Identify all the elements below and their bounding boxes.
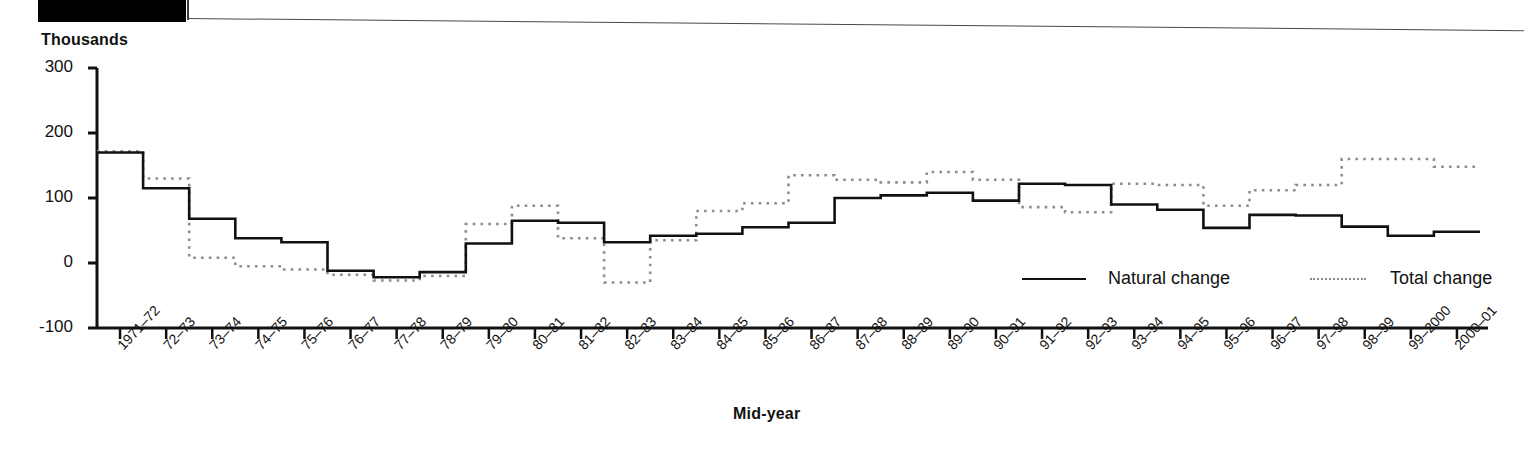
chart-figure: Thousands -1000100200300 1971–7272–7373–… [0,0,1524,466]
series-group [97,151,1480,282]
plot-canvas [0,0,1524,466]
legend-swatch-solid-icon [1022,272,1086,286]
legend-entry-natural-change[interactable]: Natural change [1022,268,1230,289]
x-axis-title: Mid-year [733,405,800,423]
legend-swatch-dotted-icon [1304,272,1368,286]
y-tick-label: 200 [13,122,73,142]
y-tick-label: 0 [13,252,73,272]
series-line-natural-change [97,153,1480,278]
legend-label-total-change: Total change [1390,268,1492,289]
chart-legend: Natural change Total change [1022,268,1492,289]
legend-label-natural-change: Natural change [1108,268,1230,289]
axes-group [88,68,1488,339]
y-tick-label: 300 [13,57,73,77]
y-tick-label: 100 [13,187,73,207]
y-tick-label: -100 [13,317,73,337]
series-line-total-change [97,151,1480,282]
legend-entry-total-change[interactable]: Total change [1304,268,1492,289]
